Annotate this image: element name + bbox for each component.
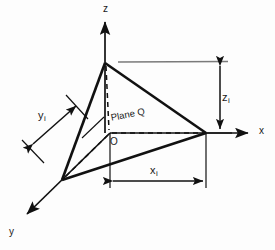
origin-label: O [110,137,118,147]
y-extension-line-upper [66,95,88,119]
plane-q-triangle [62,63,206,180]
y-intercept-label: yi [38,110,46,123]
y-axis-label: y [9,227,14,237]
z-intercept-label: zi [222,92,230,105]
axis-group [27,22,248,214]
y-intercept-subscript: i [44,114,46,123]
x-intercept-symbol: x [150,164,156,176]
triangle-edge-x-to-y [62,133,206,180]
z-axis-label: z [103,4,108,14]
z-dimension-group [118,62,232,134]
z-intercept-subscript: i [228,96,230,105]
x-intercept-label: xi [150,165,158,178]
diagram-svg [0,0,275,250]
y-intercept-symbol: y [38,109,44,121]
x-axis-label: x [259,126,264,136]
figure-canvas: z x y O Plane Q zi xi yi [0,0,275,250]
x-intercept-subscript: i [156,169,158,178]
z-intercept-symbol: z [222,91,228,103]
dashed-z-drop [106,66,109,130]
z-extension-line-top [118,62,228,63]
y-dimension-group [22,95,88,163]
triangle-edge-z-to-x [105,63,206,133]
